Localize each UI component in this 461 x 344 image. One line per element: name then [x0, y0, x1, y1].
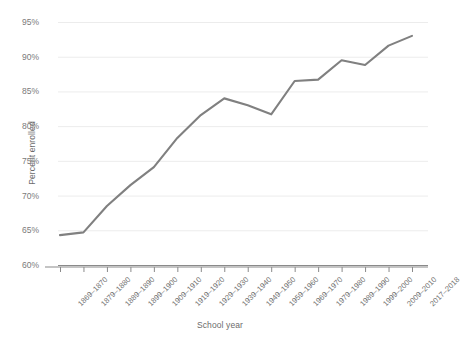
y-axis-tick-labels: 95%90%85%80%75%70%65%60%	[22, 0, 56, 344]
y-axis-tick-label: 85%	[22, 86, 56, 96]
y-axis-tick-label: 65%	[22, 225, 56, 235]
y-axis-tick-label: 95%	[22, 17, 56, 27]
y-axis-tick-label: 75%	[22, 156, 56, 166]
y-axis-tick-label: 70%	[22, 191, 56, 201]
x-axis-title: School year	[150, 320, 290, 330]
x-axis-ticks	[61, 267, 413, 272]
y-axis-tick-label: 60%	[22, 260, 56, 270]
y-axis-tick-label: 80%	[22, 121, 56, 131]
y-axis-tick-label: 90%	[22, 52, 56, 62]
data-line-series-percent-enrolled	[60, 36, 412, 235]
